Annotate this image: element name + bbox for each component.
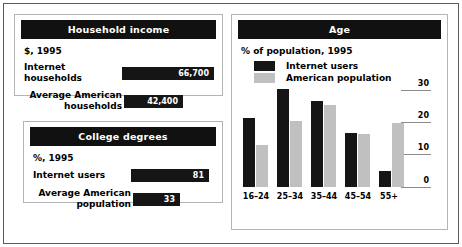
bar-row-label: Average American households: [24, 90, 124, 112]
legend-swatch-icon: [254, 61, 275, 71]
tick-line: [401, 122, 431, 123]
x-axis-label: 25–34: [270, 192, 310, 201]
panel-college-degrees: College degrees %, 1995 Internet users 8…: [23, 121, 223, 203]
bar-row-label: Average American population: [33, 188, 133, 210]
bar-row: Internet users 81: [24, 169, 222, 182]
panel-title-household-income: Household income: [21, 20, 216, 39]
panel-subtitle-age: % of population, 1995: [241, 46, 447, 56]
bar-group: [277, 15, 302, 187]
panel-age: Age % of population, 1995 Internet users…: [231, 14, 448, 230]
bar-group: [311, 15, 336, 187]
x-axis-label: 45–54: [338, 192, 378, 201]
tick-line: [401, 154, 431, 155]
y-tick-label: 20: [403, 111, 429, 120]
legend-item-american-population: American population: [254, 73, 447, 83]
bar-value: 81: [131, 169, 209, 182]
screenshot-root: Household income $, 1995 Internet househ…: [0, 0, 462, 247]
bar-american-population: [290, 121, 302, 187]
y-tick-label: 10: [403, 143, 429, 152]
bar-group: [243, 15, 268, 187]
legend-swatch-icon: [254, 73, 275, 83]
panel-subtitle-household-income: $, 1995: [24, 46, 222, 56]
content-area: Household income $, 1995 Internet househ…: [0, 0, 462, 247]
bar-value: 66,700: [122, 67, 214, 80]
bar-american-population: [324, 105, 336, 187]
bar-row: Average American population 33: [24, 188, 222, 210]
x-axis-label: 35–44: [304, 192, 344, 201]
bar-group: [345, 15, 370, 187]
bar-internet-users: [311, 101, 323, 187]
legend-label: American population: [286, 73, 392, 83]
legend-item-internet-users: Internet users: [254, 61, 447, 71]
x-axis-label: 55+: [374, 192, 404, 201]
legend-label: Internet users: [286, 61, 358, 71]
bar-american-population: [392, 123, 404, 187]
bar-internet-users: [345, 133, 357, 187]
y-tick-label: 0: [403, 176, 429, 185]
x-axis-label: 16–24: [236, 192, 276, 201]
panel-title-age: Age: [238, 20, 441, 39]
bar-value: 33: [133, 193, 180, 206]
panel-title-college-degrees: College degrees: [30, 127, 216, 146]
panel-household-income: Household income $, 1995 Internet househ…: [14, 14, 223, 96]
bar-group: [379, 15, 404, 187]
bar-row: Average American households 42,400: [15, 90, 222, 112]
bar-internet-users: [277, 89, 289, 187]
bar-internet-users: [243, 118, 255, 187]
bar-american-population: [358, 134, 370, 187]
bar-row-label: Internet users: [33, 170, 131, 181]
bar-american-population: [256, 145, 268, 187]
tick-line: [401, 90, 431, 91]
tick-line: [401, 187, 431, 188]
chart-legend: Internet users American population: [254, 61, 447, 83]
bar-value: 42,400: [124, 95, 183, 108]
bar-row: Internet households 66,700: [15, 62, 222, 84]
panel-subtitle-college-degrees: %, 1995: [33, 153, 222, 163]
bar-row-label: Internet households: [24, 62, 122, 84]
bar-internet-users: [379, 171, 391, 187]
